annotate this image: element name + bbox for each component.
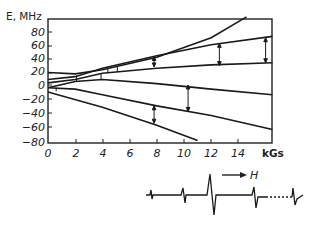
x-tick-labels: 0 2 4 6 8 10 12 14 <box>45 147 246 160</box>
svg-text:2: 2 <box>73 147 80 160</box>
svg-text:−80: −80 <box>22 136 45 149</box>
svg-text:10: 10 <box>177 147 191 160</box>
svg-text:0: 0 <box>38 79 45 92</box>
energy-level-level-5 <box>48 88 272 130</box>
energy-levels <box>48 17 272 141</box>
svg-text:12: 12 <box>204 147 218 160</box>
transition-arrow <box>152 106 156 123</box>
svg-text:6: 6 <box>127 147 134 160</box>
y-tick-labels: 80 60 40 20 0 −20 −40 −60 −80 <box>22 26 45 149</box>
x-axis-unit: kGs <box>262 147 284 159</box>
svg-text:40: 40 <box>31 52 45 65</box>
transition-arrow <box>264 38 268 63</box>
field-arrow: H <box>222 169 258 182</box>
transition-arrow <box>218 43 222 65</box>
svg-text:20: 20 <box>31 65 45 78</box>
field-label: H <box>250 169 258 182</box>
spectrum-trace <box>146 174 266 215</box>
transition-arrow <box>186 85 190 111</box>
svg-text:14: 14 <box>231 147 245 160</box>
svg-text:−20: −20 <box>22 93 45 106</box>
svg-text:4: 4 <box>100 147 107 160</box>
energy-level-chart: E, MHz 80 60 40 20 0 −20 −40 −60 −80 0 2… <box>0 0 321 236</box>
svg-text:80: 80 <box>31 26 45 39</box>
svg-text:−40: −40 <box>22 107 45 120</box>
svg-text:0: 0 <box>45 147 52 160</box>
svg-text:8: 8 <box>154 147 161 160</box>
svg-text:60: 60 <box>31 39 45 52</box>
energy-level-level-4 <box>48 79 272 94</box>
svg-text:−60: −60 <box>22 121 45 134</box>
y-axis-title: E, MHz <box>6 10 42 22</box>
spectrum-tail <box>292 188 303 205</box>
